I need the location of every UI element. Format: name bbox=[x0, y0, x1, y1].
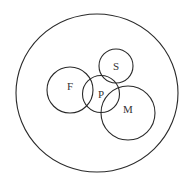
set-label-m: M bbox=[123, 103, 133, 115]
set-label-s: S bbox=[113, 60, 119, 72]
set-label-p: P bbox=[98, 88, 104, 100]
euler-diagram: F P S M bbox=[0, 0, 192, 183]
set-label-f: F bbox=[67, 80, 73, 92]
